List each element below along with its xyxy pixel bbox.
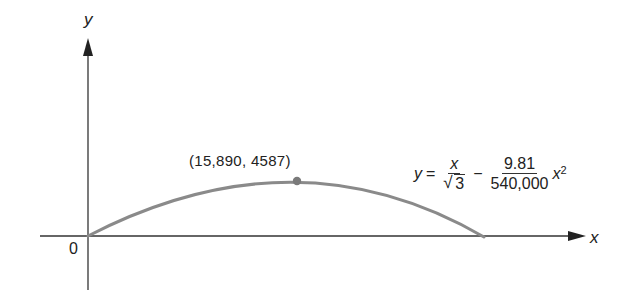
peak-point-marker <box>293 177 301 185</box>
equation-minus: − <box>473 165 482 183</box>
fraction-denominator: 540,000 <box>491 174 549 193</box>
equation-lhs: y <box>414 165 422 183</box>
equation-variable: x <box>552 165 560 183</box>
y-axis-arrow-icon <box>83 38 93 56</box>
square-root: √ 3 <box>443 175 465 192</box>
trajectory-equation: y = x √ 3 − 9.81 540,000 x2 <box>414 155 567 193</box>
x-axis-arrow-icon <box>568 231 586 241</box>
fraction-gravity-coefficient: 9.81 540,000 <box>491 155 549 193</box>
radicand: 3 <box>454 174 465 192</box>
trajectory-diagram: (15,890, 4587) 0 x y y = x √ 3 − 9.81 54… <box>0 0 621 299</box>
fraction-numerator: x <box>448 155 460 174</box>
fraction-x-over-root3: x √ 3 <box>443 155 465 193</box>
x-axis-label: x <box>590 228 599 248</box>
fraction-denominator: √ 3 <box>443 174 465 193</box>
equation-exponent: 2 <box>560 164 566 176</box>
radical-icon: √ <box>443 174 452 192</box>
y-axis-label: y <box>84 10 93 30</box>
fraction-numerator: 9.81 <box>502 155 537 174</box>
axes-and-curve <box>0 0 621 299</box>
equation-equals: = <box>426 165 435 183</box>
origin-label: 0 <box>69 240 78 258</box>
peak-point-label: (15,890, 4587) <box>189 152 291 169</box>
